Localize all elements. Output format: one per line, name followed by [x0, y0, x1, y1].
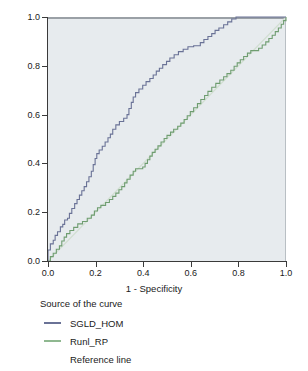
- plot-area: [48, 17, 286, 261]
- legend-title: Source of the curve: [40, 298, 290, 309]
- legend-swatch: [44, 358, 61, 360]
- legend-item-label: Runl_RP: [70, 336, 108, 347]
- legend-item: Runl_RP: [40, 334, 290, 348]
- x-tick-label: 0.8: [223, 268, 253, 278]
- roc-curves: [48, 17, 286, 261]
- y-tick-mark: [42, 261, 47, 262]
- y-tick-mark: [42, 163, 47, 164]
- y-tick-label: 0.8: [14, 61, 40, 71]
- legend-swatch: [44, 322, 61, 324]
- x-tick-label: 1.0: [271, 268, 301, 278]
- legend-item: Reference line: [40, 352, 290, 366]
- legend-items: SGLD_HOMRunl_RPReference line: [40, 316, 290, 366]
- legend: Source of the curve SGLD_HOMRunl_RPRefer…: [40, 298, 290, 370]
- x-tick-mark: [286, 262, 287, 267]
- x-tick-label: 0.6: [176, 268, 206, 278]
- x-axis-title: 1 - Specificity: [0, 283, 308, 294]
- y-tick-mark: [42, 212, 47, 213]
- legend-item: SGLD_HOM: [40, 316, 290, 330]
- y-tick-label: 0.6: [14, 110, 40, 120]
- x-tick-mark: [96, 262, 97, 267]
- y-tick-label: 0.2: [14, 207, 40, 217]
- y-tick-mark: [42, 17, 47, 18]
- x-axis-line: [47, 261, 287, 262]
- x-tick-mark: [191, 262, 192, 267]
- y-tick-label: 1.0: [14, 12, 40, 22]
- x-tick-label: 0.2: [81, 268, 111, 278]
- x-tick-label: 0.4: [128, 268, 158, 278]
- y-tick-label: 0.4: [14, 158, 40, 168]
- x-tick-mark: [238, 262, 239, 267]
- x-tick-mark: [48, 262, 49, 267]
- y-tick-mark: [42, 66, 47, 67]
- legend-item-label: Reference line: [70, 354, 131, 365]
- y-tick-label: 0.0: [14, 256, 40, 266]
- x-tick-label: 0.0: [33, 268, 63, 278]
- legend-item-label: SGLD_HOM: [70, 318, 123, 329]
- y-tick-mark: [42, 115, 47, 116]
- roc-chart-figure: 0.00.20.40.60.81.00.00.20.40.60.81.0 Sen…: [0, 0, 308, 371]
- x-tick-mark: [143, 262, 144, 267]
- legend-swatch: [44, 340, 61, 342]
- y-axis-line: [47, 17, 48, 262]
